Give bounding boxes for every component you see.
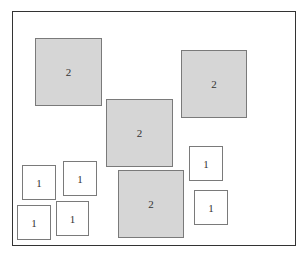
box-size-2: 2 — [35, 38, 102, 106]
box-label: 1 — [203, 158, 209, 170]
box-label: 1 — [208, 202, 214, 214]
box-size-2: 2 — [118, 170, 184, 238]
box-size-1: 1 — [22, 165, 56, 200]
box-size-1: 1 — [63, 161, 97, 196]
box-size-1: 1 — [194, 190, 228, 225]
box-label: 1 — [70, 213, 76, 225]
box-label: 1 — [77, 173, 83, 185]
box-label: 2 — [137, 127, 143, 139]
box-size-1: 1 — [189, 146, 223, 181]
box-label: 1 — [36, 177, 42, 189]
box-size-2: 2 — [181, 50, 247, 118]
box-label: 1 — [31, 217, 37, 229]
box-size-1: 1 — [17, 205, 51, 240]
box-label: 2 — [66, 66, 72, 78]
box-size-2: 2 — [106, 99, 173, 167]
box-label: 2 — [148, 198, 154, 210]
box-size-1: 1 — [56, 201, 89, 236]
diagram-canvas: 2 2 2 2 1 1 1 1 1 1 — [0, 0, 306, 256]
box-label: 2 — [211, 78, 217, 90]
